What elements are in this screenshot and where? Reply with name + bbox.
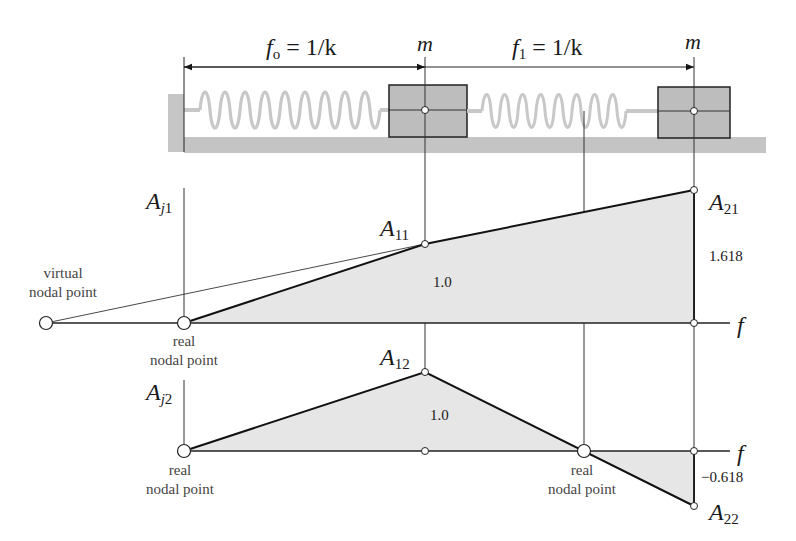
mode-1-real-nodal-point-label: realnodal point [134, 332, 234, 370]
mode-2-mid-nodal-point-marker [578, 445, 591, 458]
mode-1-f-axis-label: f [737, 313, 744, 337]
mode-2-mid-real-nodal-point-label: realnodal point [532, 461, 632, 499]
a22-label: A22 [709, 500, 739, 527]
a22-point [691, 503, 698, 510]
a11-value: 1.0 [433, 275, 452, 290]
mode-1-m2-base-point [691, 320, 698, 327]
mode-1-axis-label: Aj1 [146, 189, 172, 216]
diagram-graphics [0, 0, 796, 541]
mass-2-center-point [691, 108, 698, 115]
mode-2-axis-label: Aj2 [146, 380, 172, 407]
mode-2-left-real-nodal-point-label: realnodal point [130, 461, 230, 499]
mass-2-label: m [685, 31, 701, 53]
a12-label: A12 [380, 345, 410, 372]
a12-point [422, 369, 429, 376]
spring-1 [184, 92, 389, 128]
mass-1-center-point [422, 107, 429, 114]
a21-value: 1.618 [709, 249, 743, 264]
mode-1-chart [40, 187, 731, 330]
spring-2 [467, 95, 658, 128]
f0-dimension-label: fo = 1/k [266, 35, 336, 62]
f1-dimension-label: f1 = 1/k [512, 35, 582, 62]
mode-2-f-axis-label: f [737, 441, 744, 465]
a22-value: −0.618 [701, 470, 743, 485]
two-mass-spring-mode-shape-diagram: fo = 1/k f1 = 1/k m m Aj1 A11 1.0 A21 1.… [0, 0, 796, 541]
mode-2-m2-base-point [691, 448, 698, 455]
mode-2-m1-base-point [422, 448, 429, 455]
mode-2-left-nodal-point-marker [178, 445, 191, 458]
virtual-nodal-point-label: virtualnodal point [8, 264, 118, 302]
virtual-nodal-point-marker [40, 317, 53, 330]
ground [184, 137, 766, 153]
mode-2-chart [178, 369, 731, 510]
a11-label: A11 [380, 216, 409, 243]
mechanical-system [168, 85, 766, 153]
a12-value: 1.0 [430, 408, 449, 423]
wall [168, 94, 184, 152]
mass-1-label: m [417, 33, 433, 55]
a21-label: A21 [709, 190, 739, 217]
mode-1-real-nodal-point-marker [178, 317, 191, 330]
mode-2-shaded-positive [184, 372, 584, 451]
a11-point [422, 241, 429, 248]
mode-1-shaded-area [184, 190, 694, 323]
a21-point [691, 187, 698, 194]
